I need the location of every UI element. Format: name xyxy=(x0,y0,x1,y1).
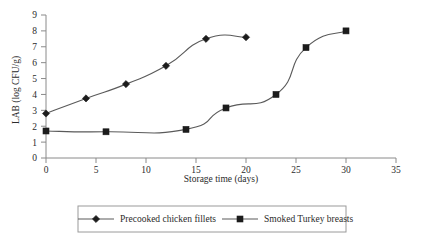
data-point-marker xyxy=(183,126,189,132)
y-axis-ticks: 0123456789 xyxy=(32,10,46,163)
y-tick-label: 3 xyxy=(32,106,37,116)
y-tick-label: 6 xyxy=(32,58,37,68)
legend-label: Smoked Turkey breasts xyxy=(264,214,354,224)
x-axis-title: Storage time (days) xyxy=(184,174,258,185)
data-point-marker xyxy=(122,81,129,88)
line-chart: LAB (log CFU/g) 0123456789 0510152025303… xyxy=(0,0,422,242)
series-1 xyxy=(42,34,249,117)
x-tick-label: 35 xyxy=(391,165,401,175)
data-point-marker xyxy=(103,129,109,135)
data-point-marker xyxy=(43,128,49,134)
y-tick-label: 8 xyxy=(32,26,37,36)
legend-label: Precooked chicken fillets xyxy=(120,214,216,224)
series-2 xyxy=(43,28,349,135)
legend-marker xyxy=(237,216,243,222)
chart-figure: LAB (log CFU/g) 0123456789 0510152025303… xyxy=(0,0,422,242)
data-point-marker xyxy=(303,45,309,51)
data-point-marker xyxy=(162,62,169,69)
legend-marker xyxy=(92,215,99,222)
data-point-marker xyxy=(202,35,209,42)
series-line xyxy=(46,31,346,133)
x-tick-label: 0 xyxy=(44,165,49,175)
y-tick-label: 2 xyxy=(32,122,37,132)
data-point-marker xyxy=(343,28,349,34)
legend-entry-1[interactable]: Precooked chicken fillets xyxy=(78,214,216,224)
series-layer xyxy=(42,28,349,135)
x-tick-label: 10 xyxy=(141,165,151,175)
y-tick-label: 9 xyxy=(32,10,37,20)
data-point-marker xyxy=(223,105,229,111)
y-tick-label: 1 xyxy=(32,138,37,148)
data-point-marker xyxy=(82,95,89,102)
legend-entries: Precooked chicken filletsSmoked Turkey b… xyxy=(78,214,354,224)
x-axis-ticks: 05101520253035 xyxy=(44,158,401,175)
y-axis-title: LAB (log CFU/g) xyxy=(11,56,22,124)
x-tick-label: 5 xyxy=(94,165,99,175)
x-tick-label: 30 xyxy=(341,165,351,175)
y-tick-label: 4 xyxy=(32,90,37,100)
legend-entry-2[interactable]: Smoked Turkey breasts xyxy=(222,214,354,224)
data-point-marker xyxy=(42,110,49,117)
y-tick-label: 7 xyxy=(32,42,37,52)
x-tick-label: 25 xyxy=(291,165,301,175)
data-point-marker xyxy=(273,91,279,97)
data-point-marker xyxy=(242,34,249,41)
chart-legend: Precooked chicken filletsSmoked Turkey b… xyxy=(78,206,354,232)
y-tick-label: 5 xyxy=(32,74,37,84)
series-line xyxy=(46,35,246,114)
y-tick-label: 0 xyxy=(32,153,37,163)
